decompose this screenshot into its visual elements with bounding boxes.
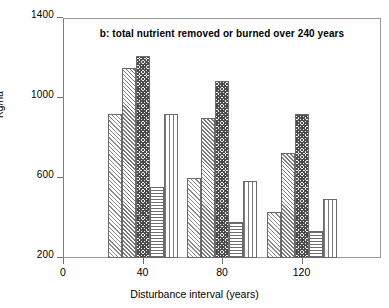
x-tick-label: 0 — [60, 267, 66, 278]
x-tick-label: 120 — [293, 267, 311, 278]
y-tick-label: 600 — [37, 170, 54, 180]
bar-120-series-2 — [281, 153, 295, 258]
bar-80-series-4 — [229, 222, 243, 258]
bar-80-series-5 — [243, 181, 257, 258]
bar-80-series-2 — [201, 118, 215, 258]
bar-120-series-3 — [295, 114, 309, 258]
bar-chart: Kg/ha 20060010001400 b: total nutrient r… — [0, 0, 389, 308]
bar-40-series-2 — [122, 68, 136, 258]
y-tick-label: 1000 — [31, 90, 54, 100]
bar-120-series-5 — [323, 199, 337, 258]
y-tick-label: 200 — [37, 250, 54, 260]
bar-40-series-3 — [136, 56, 150, 258]
bar-40-series-5 — [164, 114, 178, 258]
bar-80-series-1 — [187, 178, 201, 258]
bar-120-series-1 — [267, 212, 281, 258]
bar-40-series-4 — [150, 187, 164, 258]
bar-40-series-1 — [108, 114, 122, 258]
x-tick-mark — [63, 258, 64, 264]
y-tick-label: 1400 — [31, 10, 54, 20]
y-axis-title: Kg/ha — [0, 91, 5, 118]
x-tick-label: 40 — [137, 267, 149, 278]
x-tick-label: 80 — [216, 267, 228, 278]
x-tick-mark — [222, 258, 223, 264]
bar-80-series-3 — [215, 81, 229, 258]
x-axis-title: Disturbance interval (years) — [0, 288, 389, 300]
x-tick-mark — [302, 258, 303, 264]
bars-layer — [63, 18, 381, 258]
bar-120-series-4 — [309, 231, 323, 258]
x-tick-mark — [143, 258, 144, 264]
